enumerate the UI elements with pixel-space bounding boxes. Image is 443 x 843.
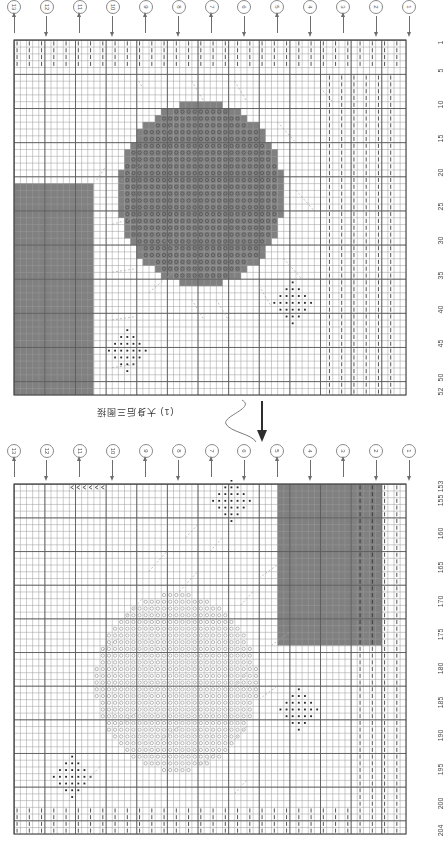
column-marker-13[interactable]: 13 <box>3 0 25 36</box>
column-marker-7[interactable]: 7 <box>201 0 223 36</box>
marker-circle-icon: 2 <box>369 444 383 458</box>
row-number-label: 200 <box>438 797 443 809</box>
column-marker-9[interactable]: 9 <box>135 0 157 36</box>
marker-arrow-icon <box>343 16 344 33</box>
row-number-label: 175 <box>438 629 443 641</box>
mid-note-text: (1) 大身后三图接 <box>96 406 174 419</box>
marker-arrow-icon <box>277 460 278 477</box>
row-number-label: 20 <box>438 169 443 177</box>
column-marker-3[interactable]: 3 <box>332 0 354 36</box>
row-number-label: 153 <box>438 481 443 493</box>
marker-circle-icon: 1 <box>402 444 416 458</box>
column-marker-7[interactable]: 7 <box>201 444 223 480</box>
column-marker-8[interactable]: 8 <box>168 444 190 480</box>
row-number-label: 52 <box>438 387 443 395</box>
column-marker-1[interactable]: 1 <box>398 0 420 36</box>
marker-arrow-icon <box>112 460 113 477</box>
marker-circle-icon: 1 <box>402 0 416 14</box>
grid-wrap-bottom: 153155160165170175180185190195200204 <box>0 480 443 840</box>
marker-circle-icon: 4 <box>303 0 317 14</box>
row-number-label: 190 <box>438 730 443 742</box>
row-number-label: 15 <box>438 135 443 143</box>
row-number-label: 160 <box>438 528 443 540</box>
marker-circle-icon: 10 <box>106 0 120 14</box>
marker-arrow-icon <box>244 460 245 477</box>
marker-arrow-icon <box>310 460 311 477</box>
column-marker-1[interactable]: 1 <box>398 444 420 480</box>
chart-panel-bottom: 13121110987654321 1531551601651701751801… <box>0 444 443 843</box>
row-number-label: 204 <box>438 824 443 836</box>
marker-circle-icon: 12 <box>40 0 54 14</box>
row-number-label: 10 <box>438 100 443 108</box>
marker-arrow-icon <box>46 16 47 33</box>
chart-grid-top[interactable] <box>0 36 443 400</box>
marker-strip-top: 13121110987654321 <box>0 0 443 36</box>
marker-circle-icon: 6 <box>237 0 251 14</box>
column-marker-10[interactable]: 10 <box>102 444 124 480</box>
chart-grid-bottom[interactable] <box>0 480 443 840</box>
marker-circle-icon: 8 <box>172 444 186 458</box>
marker-arrow-icon <box>343 460 344 477</box>
row-number-rail-bottom: 153155160165170175180185190195200204 <box>413 480 443 840</box>
row-number-label: 25 <box>438 203 443 211</box>
row-number-label: 180 <box>438 663 443 675</box>
column-marker-5[interactable]: 5 <box>266 444 288 480</box>
marker-arrow-icon <box>178 460 179 477</box>
row-number-label: 50 <box>438 374 443 382</box>
column-marker-6[interactable]: 6 <box>233 444 255 480</box>
marker-arrow-icon <box>244 16 245 33</box>
marker-arrow-icon <box>79 16 80 33</box>
row-number-label: 5 <box>438 68 443 72</box>
marker-strip-bottom: 13121110987654321 <box>0 444 443 480</box>
marker-arrow-icon <box>211 16 212 33</box>
marker-circle-icon: 12 <box>40 444 54 458</box>
marker-arrow-icon <box>376 460 377 477</box>
marker-arrow-icon <box>145 460 146 477</box>
row-number-label: 170 <box>438 595 443 607</box>
row-number-label: 165 <box>438 562 443 574</box>
grid-wrap-top: 1510152025303540455052 <box>0 36 443 400</box>
column-marker-13[interactable]: 13 <box>3 444 25 480</box>
column-marker-2[interactable]: 2 <box>365 444 387 480</box>
marker-arrow-icon <box>112 16 113 33</box>
column-marker-11[interactable]: 11 <box>69 444 91 480</box>
marker-arrow-icon <box>409 16 410 33</box>
column-marker-12[interactable]: 12 <box>36 444 58 480</box>
marker-circle-icon: 4 <box>303 444 317 458</box>
column-marker-3[interactable]: 3 <box>332 444 354 480</box>
chart-panel-top: 13121110987654321 1510152025303540455052 <box>0 0 443 400</box>
column-marker-5[interactable]: 5 <box>266 0 288 36</box>
marker-arrow-icon <box>46 460 47 477</box>
flow-down-arrow-icon <box>252 400 272 444</box>
column-marker-4[interactable]: 4 <box>299 444 321 480</box>
row-number-label: 155 <box>438 494 443 506</box>
row-number-label: 40 <box>438 305 443 313</box>
marker-arrow-icon <box>376 16 377 33</box>
marker-arrow-icon <box>14 16 15 33</box>
mid-band: (1) 大身后三图接 <box>0 398 443 446</box>
column-marker-8[interactable]: 8 <box>168 0 190 36</box>
row-number-label: 195 <box>438 764 443 776</box>
row-number-label: 30 <box>438 237 443 245</box>
column-marker-4[interactable]: 4 <box>299 0 321 36</box>
marker-arrow-icon <box>178 16 179 33</box>
row-number-label: 185 <box>438 696 443 708</box>
marker-arrow-icon <box>79 460 80 477</box>
marker-arrow-icon <box>409 460 410 477</box>
marker-arrow-icon <box>277 16 278 33</box>
marker-arrow-icon <box>145 16 146 33</box>
column-marker-6[interactable]: 6 <box>233 0 255 36</box>
marker-circle-icon: 2 <box>369 0 383 14</box>
column-marker-10[interactable]: 10 <box>102 0 124 36</box>
column-marker-9[interactable]: 9 <box>135 444 157 480</box>
column-marker-12[interactable]: 12 <box>36 0 58 36</box>
row-number-rail-top: 1510152025303540455052 <box>413 36 443 400</box>
row-number-label: 1 <box>438 41 443 45</box>
column-marker-11[interactable]: 11 <box>69 0 91 36</box>
marker-arrow-icon <box>14 460 15 477</box>
marker-arrow-icon <box>310 16 311 33</box>
marker-circle-icon: 10 <box>106 444 120 458</box>
marker-circle-icon: 8 <box>172 0 186 14</box>
marker-arrow-icon <box>211 460 212 477</box>
column-marker-2[interactable]: 2 <box>365 0 387 36</box>
